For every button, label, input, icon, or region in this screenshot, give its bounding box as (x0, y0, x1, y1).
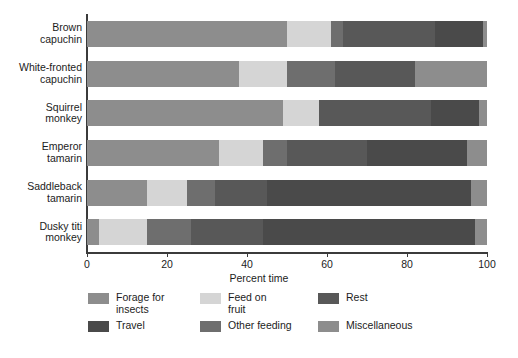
bar-row (87, 219, 487, 245)
legend-item: Feed on fruit (200, 292, 318, 315)
chart-legend: Forage for insectsFeed on fruitRestTrave… (88, 292, 418, 348)
bar-segment (467, 140, 487, 166)
bar-segment (331, 21, 343, 47)
legend-swatch-icon (318, 321, 339, 332)
x-tick-mark (407, 252, 408, 257)
legend-label: Travel (116, 320, 145, 332)
legend-label: Forage for insects (116, 292, 164, 315)
bar-segment (287, 61, 335, 87)
legend-item: Other feeding (200, 320, 318, 332)
x-tick-label: 80 (401, 258, 413, 270)
bar-segment (147, 180, 187, 206)
x-axis-line (86, 252, 488, 254)
x-tick-label: 100 (478, 258, 496, 270)
bar-segment (415, 61, 487, 87)
bar-segment (187, 180, 215, 206)
legend-item: Miscellaneous (318, 320, 436, 332)
bar-segment (287, 21, 331, 47)
x-tick-mark (327, 252, 328, 257)
bar-segment (479, 100, 487, 126)
bar-segment (343, 21, 435, 47)
legend-label: Feed on fruit (228, 292, 267, 315)
y-axis-label: Emperor tamarin (2, 141, 82, 164)
bar-segment (99, 219, 147, 245)
x-tick-mark (87, 252, 88, 257)
y-axis-category-labels: Brown capuchinWhite-fronted capuchinSqui… (0, 14, 82, 252)
legend-swatch-icon (200, 293, 221, 304)
bar-segment (267, 180, 471, 206)
y-axis-label: Saddleback tamarin (2, 181, 82, 204)
x-tick-label: 0 (84, 258, 90, 270)
bar-row (87, 100, 487, 126)
bar-segment (283, 100, 319, 126)
bar-segment (483, 21, 487, 47)
x-tick-mark (487, 252, 488, 257)
bar-segment (87, 61, 239, 87)
plot-area (87, 14, 487, 252)
x-axis-title: Percent time (0, 272, 518, 284)
y-axis-label: Dusky titi monkey (2, 221, 82, 244)
y-axis-label: White-fronted capuchin (2, 62, 82, 85)
bar-row (87, 180, 487, 206)
bar-segment (263, 219, 475, 245)
legend-swatch-icon (88, 321, 109, 332)
x-tick-label: 60 (321, 258, 333, 270)
x-tick-label: 40 (241, 258, 253, 270)
legend-swatch-icon (318, 293, 339, 304)
legend-label: Other feeding (228, 320, 292, 332)
legend-item: Forage for insects (88, 292, 200, 315)
bar-segment (147, 219, 191, 245)
legend-swatch-icon (88, 293, 109, 304)
bar-segment (87, 21, 287, 47)
bar-segment (471, 180, 487, 206)
chart-figure: Brown capuchinWhite-fronted capuchinSqui… (0, 0, 518, 358)
bar-row (87, 140, 487, 166)
bar-row (87, 61, 487, 87)
bar-segment (191, 219, 263, 245)
bar-segment (263, 140, 287, 166)
bar-row (87, 21, 487, 47)
bar-segment (287, 140, 367, 166)
legend-item: Travel (88, 320, 200, 332)
bar-segment (87, 140, 219, 166)
x-tick-label: 20 (161, 258, 173, 270)
legend-label: Rest (346, 292, 368, 304)
legend-swatch-icon (200, 321, 221, 332)
bar-segment (239, 61, 287, 87)
bar-segment (431, 100, 479, 126)
bar-segment (87, 180, 147, 206)
x-tick-mark (167, 252, 168, 257)
x-tick-mark (247, 252, 248, 257)
legend-label: Miscellaneous (346, 320, 413, 332)
bar-segment (87, 219, 99, 245)
bar-segment (219, 140, 263, 166)
bar-segment (319, 100, 431, 126)
bar-segment (367, 140, 467, 166)
bar-segment (475, 219, 487, 245)
y-axis-label: Squirrel monkey (2, 102, 82, 125)
bar-segment (335, 61, 415, 87)
y-axis-label: Brown capuchin (2, 22, 82, 45)
bar-segment (87, 100, 283, 126)
legend-item: Rest (318, 292, 436, 304)
bar-segment (435, 21, 483, 47)
bar-segment (215, 180, 267, 206)
